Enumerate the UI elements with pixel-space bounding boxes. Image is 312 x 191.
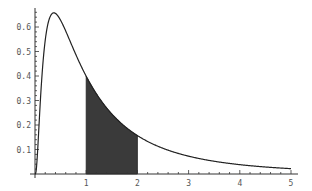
y-tick-label: 0.5 [17, 48, 32, 57]
x-tick-label: 3 [186, 179, 191, 188]
y-tick-label: 0.6 [17, 23, 32, 32]
x-tick-label: 1 [84, 179, 89, 188]
y-tick-label: 0.2 [17, 121, 32, 130]
axes [30, 8, 298, 178]
x-tick-label: 2 [135, 179, 140, 188]
density-curve [35, 13, 291, 174]
lognormal-density-chart: 123450.10.20.30.40.50.6 [0, 0, 312, 191]
y-tick-label: 0.3 [17, 97, 32, 106]
y-tick-label: 0.4 [17, 72, 32, 81]
x-tick-label: 4 [237, 179, 242, 188]
x-tick-label: 5 [289, 179, 294, 188]
density-line [35, 13, 291, 174]
y-tick-label: 0.1 [17, 146, 32, 155]
chart-svg: 123450.10.20.30.40.50.6 [0, 0, 312, 191]
tick-labels: 123450.10.20.30.40.50.6 [17, 23, 294, 188]
